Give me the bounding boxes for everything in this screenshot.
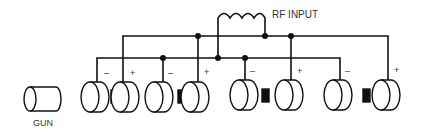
gun-label: GUN <box>33 118 53 128</box>
electrode-positive-1 <box>111 82 139 112</box>
plus-label: + <box>297 66 302 76</box>
electrode-positive-4 <box>372 80 400 110</box>
gun-icon <box>24 87 61 111</box>
electrode-negative-2 <box>145 82 173 112</box>
rf-electrode-diagram: – + – + – + – + RF INPUT GUN <box>0 0 423 135</box>
electrode-negative-4 <box>324 80 352 110</box>
electrode-positive-3 <box>275 80 303 110</box>
plus-label: + <box>130 68 135 78</box>
rf-input-label: RF INPUT <box>272 9 318 20</box>
electrode-negative-3 <box>230 80 258 110</box>
minus-label: – <box>250 66 255 76</box>
plus-label: + <box>204 67 209 77</box>
minus-label: – <box>345 66 350 76</box>
minus-label: – <box>168 68 173 78</box>
electrode-positive-2 <box>181 82 209 112</box>
electrode-negative-1 <box>81 82 109 112</box>
plus-label: + <box>394 65 399 75</box>
minus-label: – <box>104 68 109 78</box>
